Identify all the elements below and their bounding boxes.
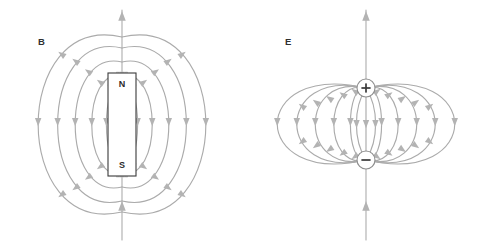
axis-arrow-up-icon [362,11,369,21]
minus-icon [361,159,370,161]
magnetic-field-diagram: NSB [0,0,244,248]
axis-arrow-up-icon [118,201,125,211]
axis-arrow-up-icon [118,11,125,21]
field-arrow-icon [72,118,78,126]
field-arrow-icon [35,118,41,126]
electric-field-diagram: E [244,0,488,248]
panel-label-electric: E [285,36,291,47]
panel-label-magnetic: B [38,36,45,47]
field-arrow-icon [425,101,435,111]
field-arrow-icon [294,118,300,126]
field-arrow-icon [363,120,369,128]
field-arrow-icon [183,118,189,126]
field-line-loop-5-right [366,84,455,164]
field-arrow-icon [95,162,105,172]
field-line-loop-5-left [277,84,366,164]
field-line-loop-1-right [366,88,382,160]
field-arrow-icon [274,118,280,126]
field-arrow-icon [324,94,334,104]
south-pole-label: S [119,160,125,170]
field-line-loop-1-left [350,88,366,160]
field-arrow-icon [425,137,435,147]
field-arrow-icon [413,118,419,126]
field-arrow-icon [203,118,209,126]
field-arrow-icon [297,137,307,147]
field-arrow-icon [372,120,378,128]
north-pole-label: N [119,79,126,89]
field-arrow-icon [347,118,353,126]
field-arrow-icon [89,118,95,126]
field-arrow-icon [324,145,334,155]
panel-electric-field: E [244,0,488,248]
axis-arrow-up-icon [362,201,369,211]
field-line-figure: NSB E [0,0,488,248]
panel-magnetic-field: NSB [0,0,244,248]
field-arrow-icon [432,118,438,126]
field-arrow-icon [331,118,337,126]
field-arrow-icon [297,101,307,111]
field-arrow-icon [378,118,384,126]
field-arrow-icon [149,118,155,126]
field-arrow-icon [166,118,172,126]
field-arrow-icon [54,118,60,126]
field-arrow-icon [398,94,408,104]
field-arrow-icon [398,145,408,155]
field-arrow-icon [395,118,401,126]
field-arrow-icon [139,77,149,87]
field-arrow-icon [95,77,105,87]
field-arrow-icon [139,162,149,172]
plus-icon [365,83,367,92]
field-arrow-icon [312,118,318,126]
field-arrow-icon [353,120,359,128]
field-arrow-icon [451,118,457,126]
